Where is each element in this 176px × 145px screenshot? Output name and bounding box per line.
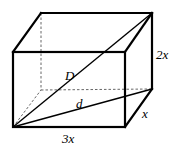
label-length: 3x: [61, 131, 75, 145]
label-depth: x: [141, 106, 148, 121]
edge-top-left-depth: [13, 13, 41, 52]
hidden-edge-bottom-left-depth: [13, 90, 41, 127]
label-height: 2x: [156, 47, 169, 62]
label-base-diagonal: d: [76, 96, 83, 111]
base-diagonal-d: [13, 89, 152, 127]
label-space-diagonal: D: [64, 68, 75, 83]
space-diagonal-D: [13, 13, 152, 127]
prism-diagram: D d 3x 2x x: [0, 0, 176, 145]
